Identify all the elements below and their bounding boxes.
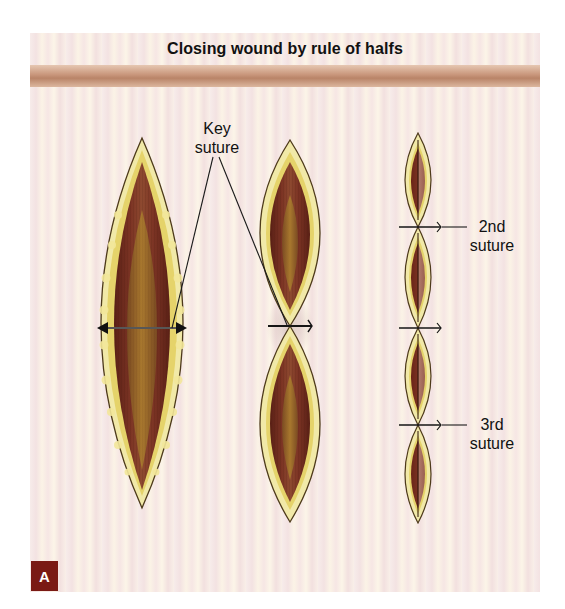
segment-3 — [405, 328, 431, 425]
key-suture-label: Key suture — [186, 119, 248, 157]
segment-1 — [405, 133, 431, 227]
segment-2 — [405, 227, 431, 328]
third-suture-label: 3rd suture — [463, 415, 521, 453]
wound-illustration — [0, 0, 565, 609]
segment-4 — [405, 425, 431, 523]
key-suture-wound — [260, 140, 320, 522]
panel-label-badge: A — [31, 561, 58, 591]
second-suture-label: 2nd suture — [463, 217, 521, 255]
halved-wound-column — [399, 133, 467, 523]
